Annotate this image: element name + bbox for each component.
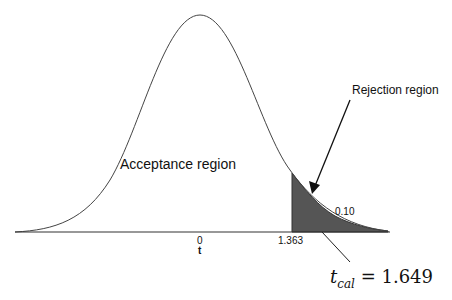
tcal-pointer-line — [322, 232, 350, 262]
bell-curve — [15, 15, 388, 232]
tcal-value: = 1.649 — [355, 266, 433, 287]
arrowhead — [309, 181, 320, 194]
rejection-arrow — [315, 100, 350, 186]
alpha-label: 0.10 — [335, 206, 354, 217]
tcal-label: tcal = 1.649 — [330, 266, 433, 291]
acceptance-region-label: Acceptance region — [120, 156, 236, 172]
rejection-region-shading — [292, 173, 388, 232]
x-axis-label: t — [198, 245, 201, 256]
critical-value-label: 1.363 — [278, 235, 303, 246]
tcal-sub: cal — [337, 277, 355, 291]
rejection-region-label: Rejection region — [352, 83, 439, 97]
t-distribution-diagram — [0, 0, 452, 300]
